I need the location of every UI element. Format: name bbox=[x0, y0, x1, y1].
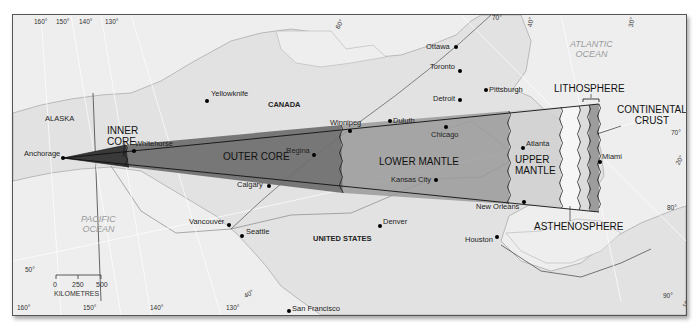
layer-label-lower-mantle: LOWER MANTLE bbox=[379, 157, 459, 168]
city-marker-regina bbox=[312, 153, 316, 157]
ocean-pacific-line2: OCEAN bbox=[81, 225, 116, 235]
map-frame: ALASKA CANADA UNITED STATES PACIFIC OCEA… bbox=[12, 14, 687, 316]
city-label-yellowknife: Yellowknife bbox=[211, 90, 248, 98]
layer-label-inner-core: INNER CORE bbox=[107, 126, 138, 147]
lon-label-top-70: 70° bbox=[492, 15, 502, 22]
lat-label-right-80: 80° bbox=[667, 205, 677, 212]
city-marker-yellowknife bbox=[205, 99, 209, 103]
city-label-pittsburgh: Pittsburgh bbox=[489, 86, 523, 94]
city-marker-anchorage bbox=[61, 156, 65, 160]
layer-label-upper-mantle: UPPER MANTLE bbox=[515, 155, 556, 176]
city-marker-atlanta bbox=[521, 146, 525, 150]
ocean-atlantic-line2: OCEAN bbox=[570, 50, 613, 60]
city-marker-detroit bbox=[458, 98, 462, 102]
city-marker-seattle bbox=[240, 234, 244, 238]
region-label-united-states: UNITED STATES bbox=[313, 235, 371, 243]
city-label-duluth: Duluth bbox=[393, 117, 415, 125]
city-label-new-orleans: New Orleans bbox=[476, 203, 519, 211]
scale-unit: KILOMETRES bbox=[54, 290, 99, 297]
upper-mantle-line1: UPPER bbox=[515, 155, 556, 166]
inner-core-line1: INNER bbox=[107, 126, 138, 137]
city-marker-houston bbox=[495, 235, 499, 239]
city-label-chicago: Chicago bbox=[431, 131, 459, 139]
scale-tick-0: 0 bbox=[53, 281, 57, 288]
city-marker-new-orleans bbox=[522, 200, 526, 204]
city-label-denver: Denver bbox=[383, 218, 407, 226]
city-label-calgary: Calgary bbox=[237, 181, 263, 189]
layer-label-outer-core: OUTER CORE bbox=[223, 152, 290, 163]
lon-label-top-130: 130° bbox=[105, 19, 118, 26]
continental-crust-line1: CONTINENTAL bbox=[617, 105, 687, 116]
ocean-label-atlantic: ATLANTIC OCEAN bbox=[570, 40, 613, 60]
inner-core-line2: CORE bbox=[107, 137, 138, 148]
scale-tick-500: 500 bbox=[96, 281, 108, 288]
scale-tick-250: 250 bbox=[72, 281, 84, 288]
city-marker-vancouver bbox=[227, 223, 231, 227]
city-marker-winnipeg bbox=[348, 129, 352, 133]
city-label-whitehorse: Whitehorse bbox=[135, 140, 173, 148]
lon-label-bottom-140: 140° bbox=[150, 305, 163, 312]
city-marker-toronto bbox=[458, 69, 462, 73]
city-marker-san-francisco bbox=[287, 309, 291, 313]
city-label-seattle: Seattle bbox=[246, 228, 269, 236]
city-marker-pittsburgh bbox=[484, 88, 488, 92]
city-label-san-francisco: San Francisco bbox=[292, 305, 340, 313]
lon-label-bottom-160: 160° bbox=[17, 305, 30, 312]
city-label-atlanta: Atlanta bbox=[526, 140, 549, 148]
ocean-label-pacific: PACIFIC OCEAN bbox=[81, 215, 116, 235]
city-label-kansas-city: Kansas City bbox=[391, 176, 431, 184]
map-base bbox=[13, 15, 686, 315]
city-marker-whitehorse bbox=[132, 149, 136, 153]
city-label-ottawa: Ottawa bbox=[426, 43, 450, 51]
lon-label-top-160: 160° bbox=[34, 19, 47, 26]
lon-label-top-150: 150° bbox=[56, 19, 69, 26]
lat-label-right-70: 70° bbox=[671, 130, 681, 137]
city-label-houston: Houston bbox=[465, 236, 493, 244]
layer-label-asthenosphere: ASTHENOSPHERE bbox=[534, 222, 623, 233]
city-label-vancouver: Vancouver bbox=[189, 218, 224, 226]
city-marker-chicago bbox=[444, 125, 448, 129]
region-label-alaska: ALASKA bbox=[45, 115, 74, 123]
city-marker-duluth bbox=[388, 119, 392, 123]
city-marker-kansas-city bbox=[434, 178, 438, 182]
city-label-miami: Miami bbox=[602, 153, 622, 161]
lon-label-top-140: 140° bbox=[79, 19, 92, 26]
city-marker-ottawa bbox=[454, 45, 458, 49]
city-marker-denver bbox=[378, 224, 382, 228]
city-label-anchorage: Anchorage bbox=[24, 150, 60, 158]
city-label-winnipeg: Winnipeg bbox=[330, 119, 361, 127]
city-label-toronto: Toronto bbox=[430, 63, 455, 71]
lat-label-left-50: 50° bbox=[25, 267, 35, 274]
lon-label-bottom-130: 130° bbox=[226, 305, 239, 312]
region-label-canada: CANADA bbox=[268, 101, 301, 109]
upper-mantle-line2: MANTLE bbox=[515, 166, 556, 177]
layer-label-lithosphere: LITHOSPHERE bbox=[554, 84, 625, 95]
layer-label-continental-crust: CONTINENTAL CRUST bbox=[617, 105, 687, 126]
continental-crust-line2: CRUST bbox=[617, 116, 687, 127]
lon-label-bottom-150: 150° bbox=[83, 305, 96, 312]
lon-label-bottom-90: 90° bbox=[663, 293, 673, 300]
city-marker-calgary bbox=[267, 184, 271, 188]
city-label-detroit: Detroit bbox=[433, 95, 455, 103]
